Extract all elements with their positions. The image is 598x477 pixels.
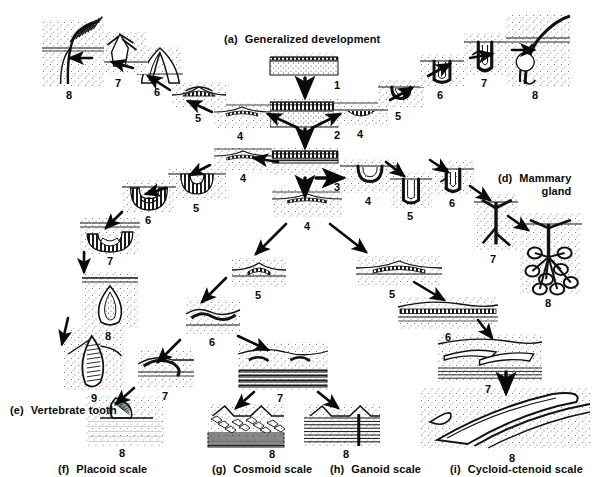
arrow-hair-5-6 bbox=[428, 64, 450, 76]
feather-stage-4 bbox=[214, 103, 270, 128]
panel-tag-h: (h) bbox=[330, 463, 344, 475]
stage-number-tooth_branch-7: 7 bbox=[102, 255, 118, 267]
tooth-stage-6 bbox=[122, 180, 176, 212]
arrow-cycloid-6-7 bbox=[478, 320, 492, 338]
arrow-bony-7-cosmoid bbox=[236, 392, 254, 408]
feather-stage-5 bbox=[172, 82, 226, 108]
cycloid-stage-8 bbox=[420, 388, 590, 448]
mammary-stage-8 bbox=[520, 212, 582, 295]
stage-number-dermal_scale_branch-8c: 8 bbox=[338, 448, 354, 460]
tooth-stage-4 bbox=[214, 147, 272, 171]
stage-4-central-placode bbox=[272, 190, 342, 218]
stage-number-tooth_branch-4: 4 bbox=[235, 172, 251, 184]
cosmoid-stage-8 bbox=[208, 404, 285, 447]
panel-title-i: Cycloid-ctenoid scale bbox=[468, 463, 583, 475]
mammary-stage-6 bbox=[432, 160, 474, 195]
stage-number-hair_branch-8: 8 bbox=[527, 89, 543, 101]
panel-label-g: (g)Cosmoid scale bbox=[212, 463, 312, 476]
stage-number-hair_branch-4: 4 bbox=[352, 128, 368, 140]
feather-stage-8 bbox=[42, 17, 104, 86]
arrow-to-feather-4 bbox=[268, 114, 298, 128]
panel-title-a: Generalized development bbox=[245, 33, 381, 45]
hair-stage-7 bbox=[464, 33, 506, 75]
stage-2-thickened-epidermis bbox=[270, 99, 338, 127]
stage-number-central_column-4: 4 bbox=[299, 220, 315, 232]
panel-tag-e: (e) bbox=[10, 404, 24, 416]
cycloid-stage-6 bbox=[398, 296, 498, 330]
stage-number-mammary_branch-6: 6 bbox=[444, 197, 460, 209]
arrow-cycloid-5-6 bbox=[414, 282, 444, 300]
dermal-stage-7-placoid bbox=[138, 350, 194, 388]
stage-number-mammary_branch-5: 5 bbox=[402, 210, 418, 222]
arrow-hair-6-7 bbox=[470, 54, 492, 58]
arrow-feather-4-5 bbox=[188, 101, 212, 112]
panel-label-h: (h)Ganoid scale bbox=[330, 463, 421, 476]
stage-number-tooth_branch-9: 9 bbox=[86, 392, 102, 404]
arrow-mammary-6-7 bbox=[470, 186, 490, 200]
arrow-dermal-7-8 bbox=[116, 388, 134, 404]
panel-label-i: (i)Cycloid-ctenoid scale bbox=[450, 463, 583, 476]
panel-tag-d: (d) bbox=[498, 172, 512, 184]
stage-1-flat-epidermis bbox=[270, 53, 338, 75]
panel-label-a: (a)Generalized development bbox=[224, 33, 380, 46]
arrow-to-hair-4 bbox=[312, 114, 340, 128]
stage-number-tooth_branch-8: 8 bbox=[100, 330, 116, 342]
panel-label-f: (f)Placoid scale bbox=[58, 463, 147, 476]
panel-title2-d: gland bbox=[498, 185, 571, 198]
panel-title-h: Ganoid scale bbox=[351, 463, 421, 475]
stage-number-tooth_branch-6: 6 bbox=[140, 214, 156, 226]
panel-title-g: Cosmoid scale bbox=[233, 463, 312, 475]
stage-number-central_column-3: 3 bbox=[329, 181, 345, 193]
tooth-stage-8 bbox=[82, 272, 138, 328]
panel-label-e: (e)Vertebrate tooth bbox=[10, 404, 117, 417]
stage-number-hair_branch-6: 6 bbox=[432, 89, 448, 101]
mammary-stage-5 bbox=[390, 172, 432, 208]
stage-number-mammary_branch-4: 4 bbox=[360, 195, 376, 207]
arrow-mammary-5-6 bbox=[430, 160, 448, 172]
cycloid-stage-5 bbox=[356, 256, 442, 286]
stage-number-dermal_scale_branch-5: 5 bbox=[250, 289, 266, 301]
arrow-dermal-6-7 bbox=[158, 340, 180, 362]
stage-number-cycloid_branch-6: 6 bbox=[440, 331, 456, 343]
stage-number-feather_branch-7: 7 bbox=[110, 77, 126, 89]
dermal-stage-5 bbox=[232, 258, 286, 288]
arrow-to-tooth-4 bbox=[254, 158, 278, 162]
stage-3-dermal-papilla bbox=[270, 148, 338, 176]
stage-number-feather_branch-8: 8 bbox=[61, 89, 77, 101]
arrow-mammary-4-5 bbox=[386, 162, 404, 176]
stage-number-tooth_branch-5: 5 bbox=[188, 202, 204, 214]
mammary-stage-4 bbox=[340, 159, 400, 193]
feather-stage-7 bbox=[96, 32, 148, 74]
arrow-bony-7-ganoid bbox=[318, 392, 338, 408]
arrow-to-cycloid-5 bbox=[330, 224, 366, 252]
hair-stage-5 bbox=[378, 80, 424, 108]
mammary-stage-7 bbox=[474, 194, 518, 250]
arrow-tooth-5-6 bbox=[146, 188, 166, 194]
tooth-stage-7 bbox=[80, 218, 140, 254]
arrow-hair-4-5 bbox=[390, 88, 412, 100]
arrow-tooth-8-9 bbox=[62, 318, 68, 344]
stage-number-dermal_scale_branch-6: 6 bbox=[204, 336, 220, 348]
stage-number-cycloid_branch-8: 8 bbox=[504, 452, 520, 464]
arrow-to-dermal-5 bbox=[256, 224, 286, 254]
ganoid-stage-8 bbox=[304, 404, 380, 446]
panel-tag-a: (a) bbox=[224, 33, 238, 45]
hair-stage-8 bbox=[506, 14, 570, 87]
stage-number-hair_branch-5: 5 bbox=[390, 110, 406, 122]
panel-tag-f: (f) bbox=[58, 463, 69, 475]
arrow-dermal-5-6 bbox=[202, 278, 226, 302]
stage-number-dermal_scale_branch-8b: 8 bbox=[264, 448, 280, 460]
arrow-dermal-6-7b bbox=[238, 336, 268, 350]
stage-number-mammary_branch-8: 8 bbox=[540, 297, 556, 309]
panel-tag-g: (g) bbox=[212, 463, 226, 475]
panel-label-d: (d)Mammarygland bbox=[498, 172, 571, 198]
stage-number-feather_branch-5: 5 bbox=[190, 112, 206, 124]
panel-tag-i: (i) bbox=[450, 463, 461, 475]
arrow-tooth-4-5 bbox=[190, 165, 210, 175]
panel-title-e: Vertebrate tooth bbox=[31, 404, 117, 416]
stage-number-hair_branch-7: 7 bbox=[476, 77, 492, 89]
feather-stage-6 bbox=[137, 47, 183, 83]
tooth-stage-5 bbox=[168, 168, 226, 200]
arrow-tooth-6-7 bbox=[106, 212, 122, 228]
stage-number-feather_branch-6: 6 bbox=[149, 86, 165, 98]
